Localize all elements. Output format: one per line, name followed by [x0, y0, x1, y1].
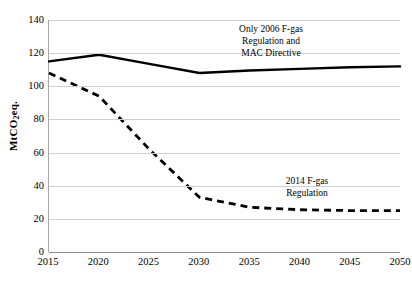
annotation-baseline-scenario: Only 2006 F-gas Regulation and MAC Direc… [196, 24, 346, 60]
y-tick-label-40: 40 [34, 180, 45, 191]
x-tick-label-2025: 2025 [138, 256, 159, 269]
y-tick-label-140: 140 [28, 15, 44, 26]
gridline-y-80 [49, 119, 400, 120]
y-tick-label-100: 100 [28, 81, 44, 92]
x-axis-baseline [49, 252, 400, 253]
annotation-regulation-line-1: 2014 F-gas [242, 176, 372, 188]
annotation-regulation-line-2: Regulation [242, 188, 372, 200]
x-tick-label-2045: 2045 [339, 256, 360, 269]
gridline-y-140 [49, 20, 400, 21]
annotation-2014-regulation: 2014 F-gas Regulation [242, 176, 372, 200]
x-tick-label-2040: 2040 [289, 256, 310, 269]
x-tick-label-2030: 2030 [188, 256, 209, 269]
gridline-y-20 [49, 219, 400, 220]
y-axis-tick-labels: 020406080100120140 [16, 0, 44, 291]
annotation-baseline-line-3: MAC Directive [196, 48, 346, 60]
x-tick-label-2035: 2035 [239, 256, 260, 269]
annotation-baseline-line-1: Only 2006 F-gas [196, 24, 346, 36]
gridline-y-60 [49, 153, 400, 154]
y-tick-label-20: 20 [34, 214, 45, 225]
x-tick-label-2050: 2050 [390, 256, 411, 269]
y-tick-label-120: 120 [28, 48, 44, 59]
y-tick-label-60: 60 [34, 147, 45, 158]
x-axis-tick-labels: 20152020202520302035204020452050 [48, 256, 400, 276]
y-tick-label-80: 80 [34, 114, 45, 125]
annotation-baseline-line-2: Regulation and [196, 36, 346, 48]
x-tick-label-2015: 2015 [38, 256, 59, 269]
gridline-y-100 [49, 86, 400, 87]
x-tick-label-2020: 2020 [88, 256, 109, 269]
chart-figure: MtCO2eq. 020406080100120140 201520202025… [0, 0, 412, 291]
